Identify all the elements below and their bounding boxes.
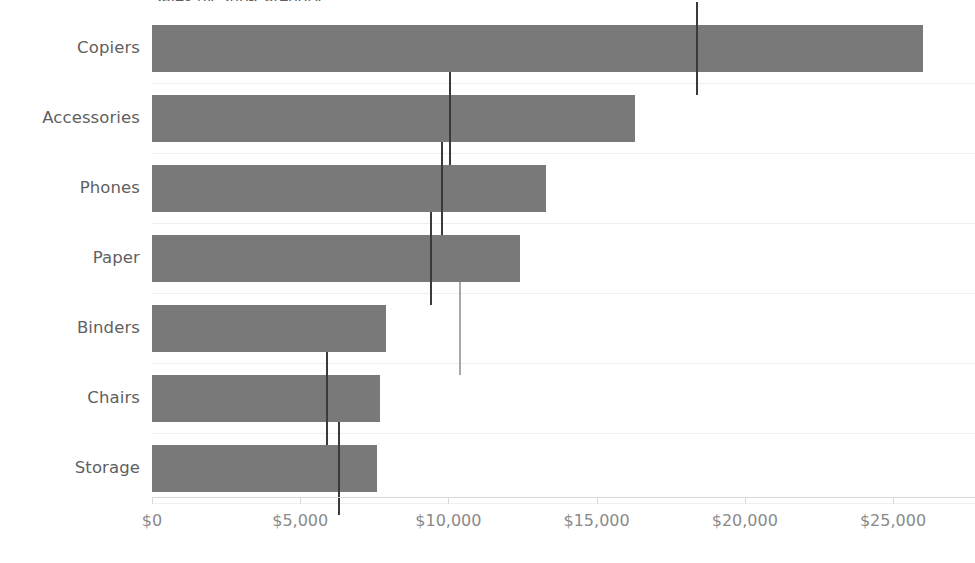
row-separator xyxy=(152,363,975,364)
tick-label: $0 xyxy=(142,511,162,530)
bar-accessories[interactable] xyxy=(152,95,635,142)
tick-mark xyxy=(152,497,153,504)
bar-chairs[interactable] xyxy=(152,375,380,422)
reference-line-copiers[interactable] xyxy=(696,2,698,95)
tick-label: $25,000 xyxy=(860,511,926,530)
category-label-storage: Storage xyxy=(0,458,140,477)
row-separator xyxy=(152,153,975,154)
plot-area xyxy=(152,0,975,497)
tick-mark xyxy=(448,497,449,504)
tick-mark xyxy=(300,497,301,504)
row-separator xyxy=(152,433,975,434)
bar-copiers[interactable] xyxy=(152,25,923,72)
row-separator xyxy=(152,293,975,294)
tick-label: $20,000 xyxy=(712,511,778,530)
tick-label: $10,000 xyxy=(415,511,481,530)
reference-line-chairs[interactable] xyxy=(326,352,328,445)
reference-line-phones[interactable] xyxy=(441,142,443,235)
bar-phones[interactable] xyxy=(152,165,546,212)
tick-mark xyxy=(597,497,598,504)
tick-label: $5,000 xyxy=(272,511,328,530)
x-axis-ticks: $0$5,000$10,000$15,000$20,000$25,000 xyxy=(0,497,975,563)
reference-line-accessories[interactable] xyxy=(449,72,451,165)
category-axis: CopiersAccessoriesPhonesPaperBindersChai… xyxy=(0,0,140,497)
row-separator xyxy=(152,83,975,84)
category-label-binders: Binders xyxy=(0,318,140,337)
category-label-paper: Paper xyxy=(0,248,140,267)
tick-mark xyxy=(893,497,894,504)
category-label-accessories: Accessories xyxy=(0,108,140,127)
category-label-phones: Phones xyxy=(0,178,140,197)
row-separator xyxy=(152,223,975,224)
bar-binders[interactable] xyxy=(152,305,386,352)
tick-mark xyxy=(745,497,746,504)
bar-storage[interactable] xyxy=(152,445,377,492)
category-label-copiers: Copiers xyxy=(0,38,140,57)
bar-paper[interactable] xyxy=(152,235,520,282)
reference-line-binders[interactable] xyxy=(459,282,461,375)
bar-chart: Sales by Sub-Category CopiersAccessories… xyxy=(0,0,975,563)
reference-line-paper[interactable] xyxy=(430,212,432,305)
tick-label: $15,000 xyxy=(564,511,630,530)
category-label-chairs: Chairs xyxy=(0,388,140,407)
